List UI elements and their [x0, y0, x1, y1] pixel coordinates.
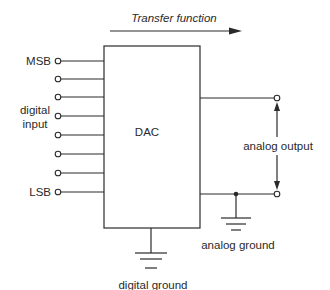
digital-ground-label: digital ground [118, 279, 187, 290]
output-terminal-bottom [274, 191, 280, 197]
output-terminal-top [274, 95, 280, 101]
analog-ground-label: analog ground [201, 239, 275, 251]
analog-output-label: analog output [243, 140, 314, 152]
transfer-function-label: Transfer function [131, 12, 216, 24]
dac-label: DAC [135, 126, 159, 138]
input-pin-3 [55, 94, 104, 100]
input-pin-7 [55, 170, 104, 176]
digital-ground-icon [135, 253, 167, 268]
arrow-head-icon [229, 28, 242, 35]
analog-ground: analog ground [201, 192, 275, 251]
lsb-label: LSB [29, 186, 51, 198]
input-pin-6 [55, 151, 104, 157]
dac-block: DAC [104, 46, 200, 228]
arrow-up-icon [274, 102, 280, 111]
digital-input-label-line2: input [23, 118, 49, 130]
input-pin-4 [55, 113, 104, 119]
digital-inputs: MSB LSB digital input [20, 55, 104, 198]
input-pin-8 [55, 189, 104, 195]
input-pin-5 [55, 132, 104, 138]
digital-ground: digital ground [118, 228, 187, 290]
digital-input-label-line1: digital [20, 104, 50, 116]
input-pin-1 [55, 58, 104, 64]
analog-output: analog output [200, 95, 314, 197]
msb-label: MSB [26, 55, 51, 67]
arrow-down-icon [274, 181, 280, 190]
analog-ground-icon [221, 218, 251, 230]
input-pin-2 [55, 76, 104, 82]
dac-diagram: Transfer function DAC MSB LSB digital in… [0, 0, 330, 290]
transfer-function-arrow: Transfer function [110, 12, 242, 35]
